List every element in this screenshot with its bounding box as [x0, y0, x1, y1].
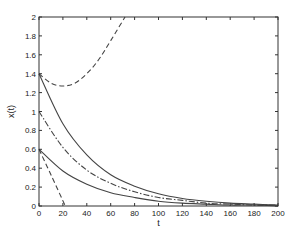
y-tick-label: 0.4: [25, 164, 37, 173]
x-tick-label: 160: [224, 209, 238, 218]
x-tick-label: 200: [271, 209, 285, 218]
x-axis-label: t: [157, 218, 160, 228]
y-axis-label: x(t): [6, 105, 16, 118]
x-tick-label: 60: [106, 209, 115, 218]
x-axis-ticks: 020406080100120140160180200: [37, 17, 285, 218]
plot-frame: [39, 17, 278, 206]
y-tick-label: 0.8: [25, 126, 37, 135]
chart: 020406080100120140160180200 00.20.40.60.…: [0, 0, 301, 233]
y-tick-label: 1.6: [25, 51, 37, 60]
y-tick-label: 0.6: [25, 145, 37, 154]
x-tick-label: 140: [200, 209, 214, 218]
y-tick-label: 2: [32, 13, 37, 22]
y-tick-label: 0: [32, 202, 37, 211]
x-tick-label: 80: [130, 209, 139, 218]
series-line-dashed-upper: [39, 17, 125, 86]
x-tick-label: 100: [152, 209, 166, 218]
plot-lines: [39, 17, 278, 206]
y-axis-ticks: 00.20.40.60.811.21.41.61.82: [25, 13, 278, 211]
y-tick-label: 1.8: [25, 32, 37, 41]
y-tick-label: 1.2: [25, 89, 37, 98]
x-tick-label: 20: [58, 209, 67, 218]
series-line-dashed-lower: [39, 149, 65, 206]
x-tick-label: 40: [82, 209, 91, 218]
y-tick-label: 0.2: [25, 183, 37, 192]
x-tick-label: 120: [176, 209, 190, 218]
x-tick-label: 180: [247, 209, 261, 218]
series-line-solid-upper: [39, 74, 278, 205]
y-tick-label: 1: [32, 108, 37, 117]
x-tick-label: 0: [37, 209, 42, 218]
series-line-dashdot-middle: [39, 112, 278, 206]
y-tick-label: 1.4: [25, 70, 37, 79]
